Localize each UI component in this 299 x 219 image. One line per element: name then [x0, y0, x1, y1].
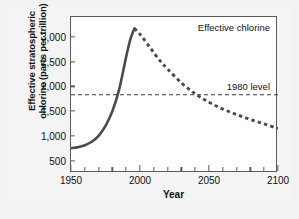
series-line-observed [71, 28, 134, 148]
y-axis-title-line-1: Effective stratospheric [26, 11, 38, 111]
plot-area: Effective chlorine 1980 level 5001,0001,… [70, 16, 277, 172]
x-axis-tick-mark [277, 165, 278, 171]
x-axis-minor-tick-mark [236, 167, 237, 171]
y-axis-tick-label: 500 [49, 155, 66, 166]
series-annotation-effective-chlorine: Effective chlorine [198, 22, 270, 33]
y-axis-tick-mark [71, 61, 75, 62]
y-axis-tick-mark [71, 36, 75, 37]
x-axis-tick-mark [70, 165, 71, 171]
x-axis-tick-label: 2050 [198, 175, 220, 186]
y-axis-tick-mark [71, 135, 75, 136]
x-axis-minor-tick-mark [98, 167, 99, 171]
x-axis-minor-tick-mark [195, 167, 196, 171]
x-axis-minor-tick-mark [181, 167, 182, 171]
y-axis-tick-mark [71, 86, 75, 87]
x-axis-tick-label: 2000 [129, 175, 151, 186]
figure-panel: Effective stratospheric chlorine (parts … [8, 6, 291, 202]
y-axis-tick-label: 1,000 [41, 130, 66, 141]
y-axis-tick-label: 3,000 [41, 31, 66, 42]
y-axis-tick-mark [71, 110, 75, 111]
chart-canvas [71, 17, 278, 173]
y-axis-tick-mark [71, 160, 75, 161]
series-line-projected [134, 28, 278, 128]
x-axis-minor-tick-mark [222, 167, 223, 171]
y-axis-tick-label: 2,000 [41, 81, 66, 92]
x-axis-minor-tick-mark [126, 167, 127, 171]
x-axis-tick-label: 1950 [60, 175, 82, 186]
x-axis-tick-label: 2100 [267, 175, 289, 186]
reference-line-label: 1980 level [227, 81, 270, 92]
x-axis-minor-tick-mark [250, 167, 251, 171]
x-axis-tick-mark [208, 165, 209, 171]
x-axis-tick-mark [139, 165, 140, 171]
y-axis-tick-label: 1,500 [41, 106, 66, 117]
chart-screenshot: Effective stratospheric chlorine (parts … [0, 0, 299, 219]
x-axis-minor-tick-mark [112, 167, 113, 171]
x-axis-title: Year [70, 189, 277, 200]
x-axis-minor-tick-mark [153, 167, 154, 171]
x-axis-minor-tick-mark [264, 167, 265, 171]
x-axis-minor-tick-mark [84, 167, 85, 171]
y-axis-tick-label: 2,500 [41, 56, 66, 67]
x-axis-minor-tick-mark [167, 167, 168, 171]
